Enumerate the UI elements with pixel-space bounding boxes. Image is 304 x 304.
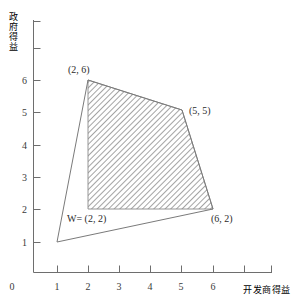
x-tick-label-origin: 0 xyxy=(10,281,15,292)
x-tick-label: 6 xyxy=(211,281,216,292)
annotation-point-2-6: (2, 6) xyxy=(68,64,90,76)
annotation-point-5-5: (5, 5) xyxy=(189,105,211,117)
annotation-point-6-2: (6, 2) xyxy=(211,213,233,225)
x-tick-label: 2 xyxy=(86,281,91,292)
x-tick-label: 3 xyxy=(117,281,122,292)
y-tick-label: 2 xyxy=(22,204,27,215)
x-tick-label: 1 xyxy=(55,281,60,292)
y-tick-label: 6 xyxy=(22,75,27,86)
chart-figure: 6 5 4 3 2 1 0 1 2 3 4 5 6 xyxy=(0,0,304,304)
x-axis-title: 开发商得益 xyxy=(243,283,291,296)
y-tick-label: 4 xyxy=(22,140,27,151)
x-tick-label: 4 xyxy=(148,281,153,292)
annotation-point-w-2-2: W= (2, 2) xyxy=(67,213,106,225)
y-axis-title: 政府得益 xyxy=(8,12,17,52)
y-tick-label: 1 xyxy=(22,237,27,248)
y-tick-label: 5 xyxy=(22,107,27,118)
y-tick-label: 3 xyxy=(22,172,27,183)
chart-svg: 6 5 4 3 2 1 0 1 2 3 4 5 6 xyxy=(0,0,304,304)
x-tick-label: 5 xyxy=(179,281,184,292)
